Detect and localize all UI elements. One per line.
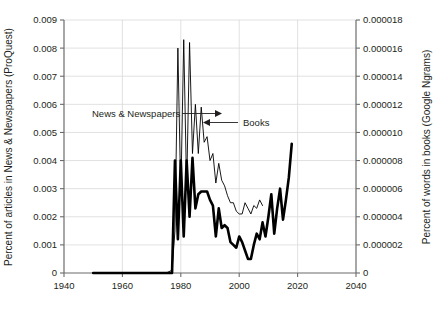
right-axis-tick-label: 0.000018	[363, 14, 403, 25]
left-axis-tick-label: 0.006	[33, 99, 57, 110]
left-axis-title: Percent of articles in News & Newspapers…	[3, 28, 14, 266]
x-axis-tick-label: 1980	[170, 280, 191, 291]
dual-axis-line-chart: 00.0010.0020.0030.0040.0050.0060.0070.00…	[0, 0, 439, 309]
right-axis-tick-label: 0.000006	[363, 183, 403, 194]
right-axis-tick-label: 0	[363, 267, 368, 278]
right-axis-title: Percent of words in books (Google Ngrams…	[421, 50, 432, 245]
left-axis-tick-label: 0.004	[33, 155, 57, 166]
books-annotation-label: Books	[243, 117, 270, 128]
left-axis-tick-label: 0.005	[33, 127, 57, 138]
x-axis-tick-label: 2020	[287, 280, 308, 291]
right-axis-tick-label: 0.000002	[363, 239, 403, 250]
right-axis-tick-label: 0.000008	[363, 155, 403, 166]
news-annotation-label: News & Newspapers	[92, 108, 180, 119]
x-axis-tick-label: 2000	[229, 280, 250, 291]
left-axis-tick-label: 0.007	[33, 71, 57, 82]
left-axis-tick-label: 0.001	[33, 239, 57, 250]
x-axis-tick-label: 2040	[345, 280, 366, 291]
left-axis-tick-label: 0.003	[33, 183, 57, 194]
right-axis-tick-label: 0.000016	[363, 43, 403, 54]
left-axis-tick-label: 0.009	[33, 14, 57, 25]
right-axis-tick-label: 0.000012	[363, 99, 403, 110]
left-axis-tick-label: 0.002	[33, 211, 57, 222]
right-axis-tick-label: 0.000014	[363, 71, 403, 82]
right-axis-tick-label: 0.000010	[363, 127, 403, 138]
right-axis-tick-label: 0.000004	[363, 211, 403, 222]
left-axis-tick-label: 0.008	[33, 43, 57, 54]
x-axis-tick-label: 1940	[53, 280, 74, 291]
chart-container: 00.0010.0020.0030.0040.0050.0060.0070.00…	[0, 0, 439, 309]
x-axis-tick-label: 1960	[112, 280, 133, 291]
left-axis-tick-label: 0	[52, 267, 57, 278]
